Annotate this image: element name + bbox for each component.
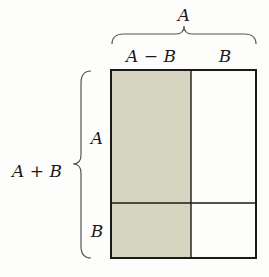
top-label-b: B xyxy=(218,46,232,66)
diagram-canvas: A A − B B A + B A B xyxy=(0,0,269,277)
top-brace-icon xyxy=(112,26,256,44)
left-label-a: A xyxy=(89,128,103,148)
top-label-a-minus-b: A − B xyxy=(124,46,176,66)
left-brace-label: A + B xyxy=(10,161,62,181)
shaded-region-a-minus-b xyxy=(111,70,191,258)
left-brace-icon xyxy=(73,71,91,258)
left-label-b: B xyxy=(90,221,104,241)
top-brace-label: A xyxy=(176,5,190,25)
